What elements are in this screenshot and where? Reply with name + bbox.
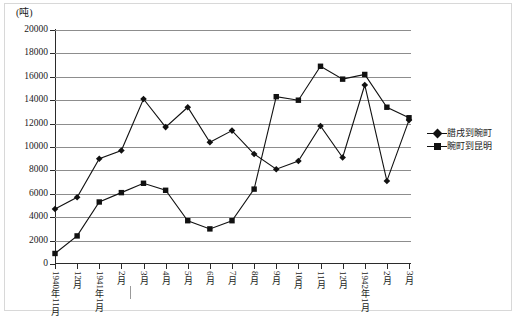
y-axis-tick-label: 2000: [29, 236, 48, 246]
legend-label: 腊戌到畹町: [447, 127, 492, 140]
data-point-marker: [295, 158, 302, 165]
y-axis-tick-label: 0: [43, 259, 48, 269]
x-axis-tick: [210, 264, 211, 269]
data-point-marker: [362, 72, 367, 77]
x-axis-tick: [254, 264, 255, 269]
data-point-marker: [118, 147, 125, 154]
x-axis-tick-label: 10月: [294, 271, 303, 289]
x-axis-tick-label: 11月: [316, 271, 325, 289]
data-point-marker: [163, 188, 168, 193]
data-point-marker: [141, 181, 146, 186]
x-axis-tick-label: 1941年1月: [95, 271, 104, 312]
data-point-marker: [119, 190, 124, 195]
x-axis-tick: [166, 264, 167, 269]
data-point-marker: [296, 97, 301, 102]
x-axis-tick-label: 12月: [338, 271, 347, 289]
y-axis-tick-label: 4000: [29, 212, 48, 222]
x-axis-tick-label: 2月: [117, 271, 126, 285]
x-axis-tick: [77, 264, 78, 269]
data-point-marker: [406, 115, 411, 120]
legend-item: 腊戌到畹町: [427, 127, 492, 140]
y-axis-tick-label: 18000: [24, 49, 48, 59]
x-axis-tick: [144, 264, 145, 269]
data-point-marker: [340, 76, 345, 81]
series-line: [55, 66, 409, 253]
x-axis-tick: [409, 264, 410, 269]
x-axis-tick-label: 8月: [250, 271, 259, 285]
y-axis-tick-label: 16000: [24, 72, 48, 82]
y-axis-tick-label: 14000: [24, 95, 48, 105]
x-axis-tick-label: 7月: [228, 271, 237, 285]
y-axis-unit-label: (吨): [16, 4, 33, 19]
x-axis-tick-label: 4月: [161, 271, 170, 285]
plot-area: 0200040006000800010000120001400016000180…: [55, 30, 411, 264]
x-axis-tick: [276, 264, 277, 269]
data-point-marker: [229, 218, 234, 223]
x-axis-tick: [321, 264, 322, 269]
x-axis-tick: [55, 264, 56, 269]
x-axis-tick: [365, 264, 366, 269]
legend: 腊戌到畹町畹町到昆明: [427, 127, 492, 153]
x-axis-tick: [298, 264, 299, 269]
legend-marker-diamond-icon: [427, 128, 447, 139]
x-axis-tick-label: 5月: [183, 271, 192, 285]
legend-marker-square-icon: [427, 141, 447, 152]
data-series-layer: [55, 30, 411, 264]
x-axis-tick: [121, 264, 122, 269]
chart-figure: (吨) 020004000600080001000012000140001600…: [0, 0, 518, 319]
x-axis-tick: [343, 264, 344, 269]
data-point-marker: [361, 82, 368, 89]
data-point-marker: [384, 178, 391, 185]
data-point-marker: [97, 199, 102, 204]
data-point-marker: [185, 218, 190, 223]
data-point-marker: [317, 123, 324, 130]
data-point-marker: [207, 226, 212, 231]
series-line: [55, 85, 409, 209]
data-point-marker: [52, 251, 57, 256]
data-point-marker: [251, 186, 256, 191]
x-axis-tick-label: 1942年1月: [360, 271, 369, 312]
x-axis-tick-label: 1940年11月: [51, 271, 60, 316]
x-axis-tick: [232, 264, 233, 269]
y-axis-tick-label: 10000: [24, 142, 48, 152]
data-point-marker: [339, 154, 346, 161]
x-axis-tick: [99, 264, 100, 269]
data-point-marker: [74, 233, 79, 238]
x-axis-tick-label: 3月: [139, 271, 148, 285]
x-axis-tick-label: 2月: [382, 271, 391, 285]
data-point-marker: [274, 94, 279, 99]
legend-item: 畹町到昆明: [427, 140, 492, 153]
y-axis-tick-label: 20000: [24, 25, 48, 35]
y-axis-tick-label: 6000: [29, 189, 48, 199]
y-axis-tick-label: 12000: [24, 119, 48, 129]
y-axis-tick-label: 8000: [29, 166, 48, 176]
x-axis-tick-label: 9月: [272, 271, 281, 285]
x-axis-tick-label: 6月: [205, 271, 214, 285]
data-point-marker: [96, 155, 103, 162]
data-point-marker: [384, 105, 389, 110]
series-diamond: [52, 82, 413, 213]
series-square: [52, 64, 411, 257]
x-axis-tick-label: 12月: [73, 271, 82, 289]
data-point-marker: [318, 64, 323, 69]
stray-tick-artifact: [130, 286, 131, 299]
x-axis-tick-label: 3月: [405, 271, 414, 285]
data-point-marker: [207, 139, 214, 146]
legend-label: 畹町到昆明: [447, 140, 492, 153]
x-axis-tick: [188, 264, 189, 269]
data-point-marker: [74, 194, 81, 201]
data-point-marker: [273, 166, 280, 173]
x-axis-tick: [387, 264, 388, 269]
